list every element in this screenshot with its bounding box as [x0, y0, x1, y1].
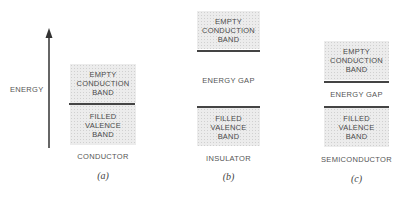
panel-caption: (a) [70, 170, 136, 181]
panel-label: CONDUCTOR [70, 152, 136, 161]
valence-band: FILLED VALENCE BAND [197, 108, 260, 146]
panel-label: INSULATOR [197, 154, 260, 163]
conduction-band: EMPTY CONDUCTION BAND [70, 64, 136, 103]
panel-caption: (b) [197, 171, 260, 182]
energy-axis-label: ENERGY [10, 85, 43, 94]
conduction-band-edge-line [324, 81, 389, 83]
valence-band: FILLED VALENCE BAND [324, 108, 389, 147]
energy-arrow-icon [44, 28, 54, 150]
panel-caption: (c) [324, 173, 389, 184]
valence-band: FILLED VALENCE BAND [70, 105, 136, 145]
conduction-band: EMPTY CONDUCTION BAND [197, 11, 260, 49]
conduction-band: EMPTY CONDUCTION BAND [324, 41, 389, 80]
panel-label: SEMICONDUCTOR [318, 155, 395, 164]
energy-gap-label: ENERGY GAP [197, 76, 260, 85]
conduction-band-edge-line [197, 50, 260, 52]
energy-gap-label: ENERGY GAP [324, 90, 389, 99]
